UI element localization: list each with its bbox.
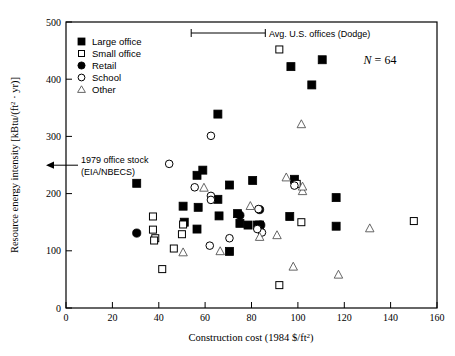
legend-marker-filled-circle [78,62,85,69]
data-point [298,219,305,226]
x-axis-title-tail: ) [310,332,314,344]
y-tick-label: 100 [46,245,61,256]
x-tick-label: 160 [430,312,445,323]
data-point [133,179,141,187]
data-point [332,222,340,230]
legend-marker-open-circle [78,74,85,81]
x-tick-label: 0 [64,312,69,323]
data-point [253,225,261,233]
y-axis-title: Resource energy intensity [kBtu/(ft2 · y… [9,77,22,253]
data-point [207,132,215,140]
chart-legend: Large office Small office Retail School … [78,36,142,95]
y-axis-title-main: Resource energy intensity [kBtu/(ft [9,105,21,253]
data-point [308,81,316,89]
data-points-layer [133,46,418,289]
data-point [151,237,158,244]
data-point [165,160,173,168]
data-point [289,262,297,270]
annotation-office-stock-1979: 1979 office stock (EIA/NBECS) [46,155,149,177]
data-point [216,247,224,255]
data-point [178,231,185,238]
data-point [287,63,295,71]
data-point [133,229,141,237]
data-point [179,248,187,256]
left-arrow-icon [46,162,54,169]
legend-marker-filled-square [78,38,85,45]
x-tick-label: 80 [247,312,257,323]
data-point [246,202,254,210]
data-point [255,205,263,213]
series-small-office [149,46,417,289]
y-tick-label: 500 [46,17,61,28]
x-axis-title-main: Construction cost (1984 $/ft [188,332,306,344]
data-point [199,166,207,174]
sample-size-value: = 64 [375,53,397,67]
x-tick-label: 120 [337,312,352,323]
data-point [193,225,201,233]
legend-label-school: School [92,72,121,83]
x-axis-ticks [66,302,437,308]
data-point [249,176,257,184]
data-point [225,181,233,189]
data-point [206,242,214,250]
data-point [366,224,374,232]
data-point [282,173,290,181]
data-point [194,203,202,211]
y-axis-title-tail: · yr)] [9,77,21,102]
legend-label-other: Other [92,84,116,95]
scatter-chart-figure: 0 100 200 300 400 500 0 20 40 60 80 100 … [0,0,455,356]
x-tick-label: 40 [154,312,164,323]
legend-label-retail: Retail [92,60,116,71]
data-point [410,218,417,225]
annotation-avg-us-offices: Avg. U.S. offices (Dodge) [191,29,370,39]
data-point [179,202,187,210]
data-point [207,196,215,204]
x-tick-label: 60 [200,312,210,323]
x-tick-label: 140 [383,312,398,323]
data-point [286,212,294,220]
data-point [318,56,326,64]
data-point [291,182,299,190]
annotation-office-stock-1979-line1: 1979 office stock [81,155,149,165]
y-tick-label: 400 [46,74,61,85]
y-tick-label: 0 [56,303,61,314]
x-axis-tick-labels: 0 20 40 60 80 100 120 140 160 [64,312,445,323]
series-large-office [133,56,340,256]
legend-marker-open-square [79,51,85,57]
data-point [276,46,283,53]
x-axis-title: Construction cost (1984 $/ft2) [188,332,314,345]
data-point [149,213,156,220]
data-point [159,266,166,273]
data-point [170,245,177,252]
data-point [236,211,244,219]
data-point [276,282,283,289]
data-point [191,184,199,192]
data-point [244,221,252,229]
data-point [200,183,208,191]
data-point [236,219,244,227]
data-point [225,247,233,255]
y-tick-label: 200 [46,188,61,199]
annotation-avg-us-offices-label: Avg. U.S. offices (Dodge) [269,29,370,39]
legend-label-large-office: Large office [92,36,141,47]
x-tick-label: 100 [290,312,305,323]
legend-marker-open-triangle [78,86,86,93]
annotation-office-stock-1979-line2: (EIA/NBECS) [81,167,135,177]
data-point [226,234,234,242]
data-point [180,221,187,228]
data-point [149,226,156,233]
data-point [215,212,223,220]
data-point [332,194,340,202]
y-tick-label: 300 [46,131,61,142]
data-point [297,120,305,128]
sample-size-symbol: N [363,53,373,67]
data-point [214,110,222,118]
sample-size-label: N= 64 [363,53,397,67]
data-point [273,231,281,239]
legend-label-small-office: Small office [92,48,141,59]
data-point [334,270,342,278]
x-tick-label: 20 [107,312,117,323]
